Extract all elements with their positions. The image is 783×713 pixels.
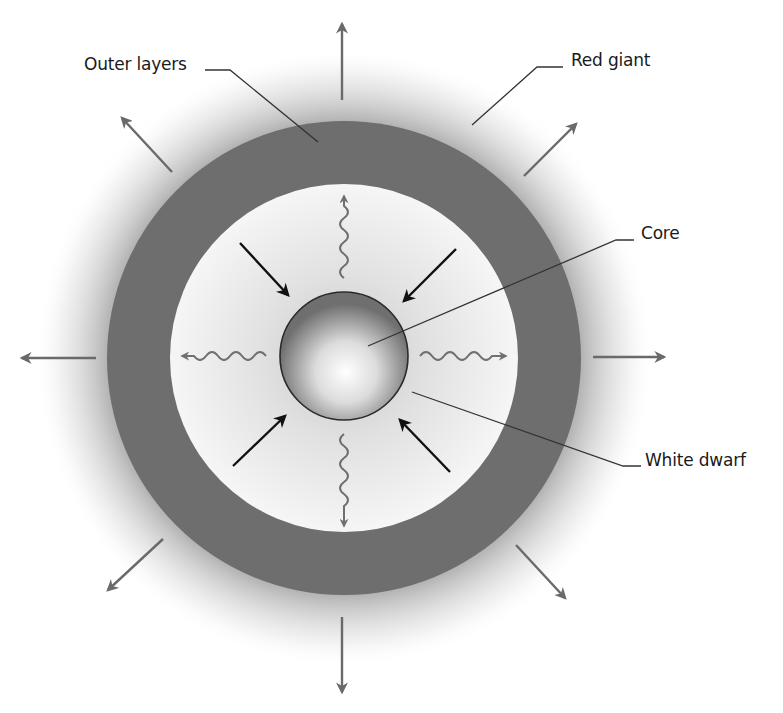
label-outer-layers: Outer layers [84,54,187,74]
label-core: Core [641,223,680,243]
label-white-dwarf: White dwarf [645,450,746,470]
core-sphere [280,292,408,420]
stellar-evolution-diagram [0,0,783,713]
label-red-giant: Red giant [571,50,650,70]
